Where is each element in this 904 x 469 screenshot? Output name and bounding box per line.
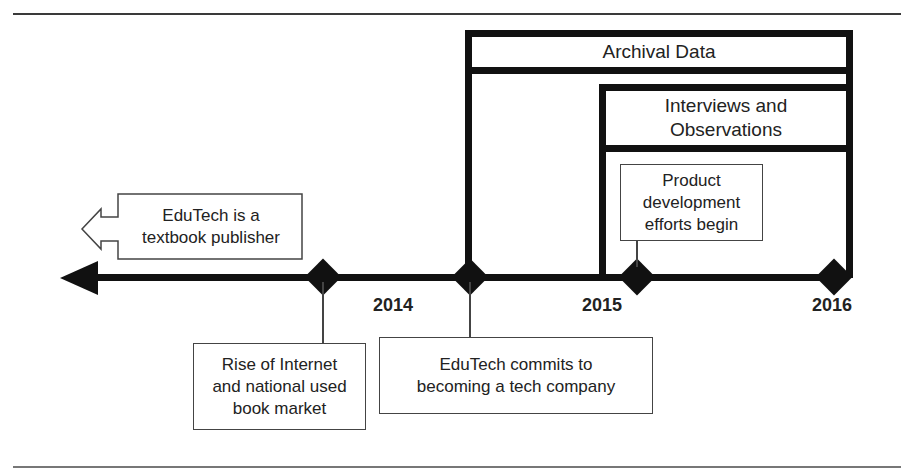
product-line-1: Product: [643, 170, 740, 192]
past-line-2: textbook publisher: [142, 227, 280, 249]
commit-line-2: becoming a tech company: [417, 376, 615, 398]
top-rule: [13, 13, 901, 15]
rise-line-2: and national used: [212, 376, 346, 398]
year-2014-label: 2014: [373, 295, 413, 316]
stem-product-dev: [636, 241, 638, 267]
interviews-line-1: Interviews and: [606, 94, 846, 118]
event-box-product-dev: Product development efforts begin: [620, 164, 763, 241]
rise-line-3: book market: [212, 398, 346, 420]
event-box-rise-internet: Rise of Internet and national used book …: [193, 343, 366, 430]
interviews-divider: [606, 145, 846, 152]
stem-commit-tech: [469, 282, 471, 338]
event-box-commit-tech: EduTech commits to becoming a tech compa…: [379, 337, 653, 414]
commit-line-1: EduTech commits to: [417, 354, 615, 376]
archival-data-label: Archival Data: [472, 37, 846, 67]
interviews-label: Interviews and Observations: [606, 92, 846, 144]
stem-rise-internet: [322, 282, 324, 344]
bottom-rule: [13, 466, 901, 468]
archival-divider: [472, 67, 846, 74]
past-event-text: EduTech is a textbook publisher: [120, 196, 302, 258]
rise-line-1: Rise of Internet: [212, 354, 346, 376]
product-line-3: efforts begin: [643, 214, 740, 236]
archival-data-text: Archival Data: [603, 41, 716, 62]
interviews-line-2: Observations: [606, 118, 846, 142]
product-line-2: development: [643, 192, 740, 214]
year-2016-label: 2016: [812, 295, 852, 316]
past-line-1: EduTech is a: [142, 205, 280, 227]
timeline-left-arrowhead-icon: [60, 260, 100, 296]
year-2015-label: 2015: [582, 295, 622, 316]
